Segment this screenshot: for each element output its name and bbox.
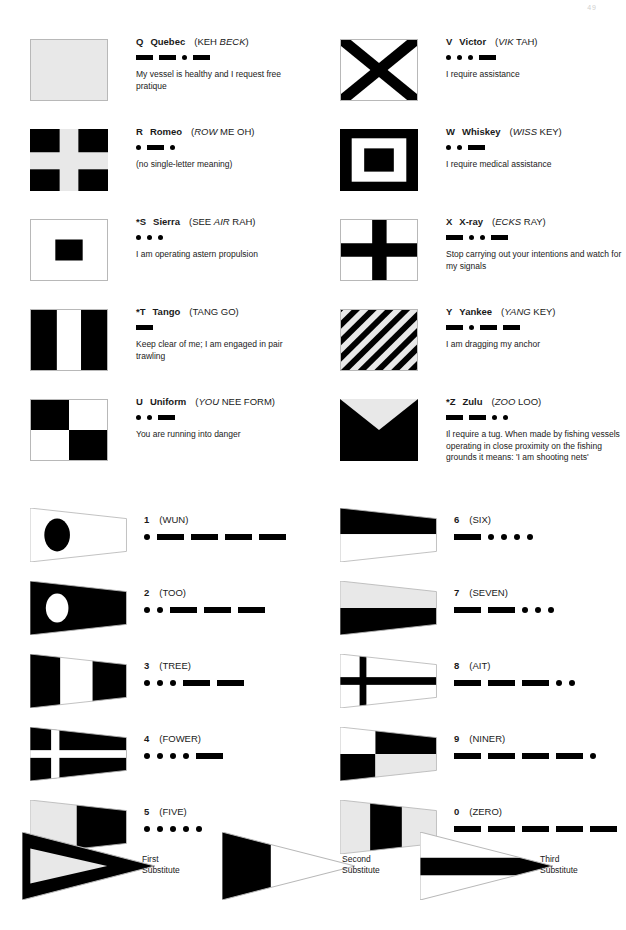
numeral-pennant-entry: 7(SEVEN) <box>318 581 618 652</box>
morse-dash <box>522 753 549 759</box>
morse-dash <box>204 607 231 613</box>
morse-dot <box>469 235 474 240</box>
morse-dash <box>480 325 497 330</box>
pennant-word: (AIT) <box>469 660 490 671</box>
numeral-pennant-entry: 8(AIT) <box>318 654 618 725</box>
substitute-label: First Substitute <box>142 854 180 876</box>
flag-letter: Y <box>446 306 452 317</box>
morse-dot <box>144 753 150 759</box>
morse-dot <box>522 607 528 613</box>
morse-dash <box>454 534 481 540</box>
flag-info: VVictor(VIK TAH) I require assistance <box>446 36 622 81</box>
flag-info: *ZZulu(ZOO LOO) Il require a tug. When m… <box>446 396 622 464</box>
flag-letter: *T <box>136 306 146 317</box>
flag-info: XX-ray(ECKS RAY) Stop carrying out your … <box>446 216 622 272</box>
morse-code <box>446 53 622 62</box>
flag-title: *ZZulu(ZOO LOO) <box>446 396 622 408</box>
flag-info: WWhiskey(WISS KEY) I require medical ass… <box>446 126 622 171</box>
flag-title: *TTango(TANG GO) <box>136 306 312 318</box>
substitute-label-line1: First <box>142 854 180 865</box>
morse-dash <box>479 55 496 60</box>
morse-dot <box>147 235 152 240</box>
flag-letter: X <box>446 216 452 227</box>
pennant-sub1 <box>22 832 157 900</box>
letter-flag-entry: *ZZulu(ZOO LOO) Il require a tug. When m… <box>318 396 618 481</box>
flag-romeo <box>30 129 108 191</box>
numeral-pennant-entry: 6(SIX) <box>318 508 618 579</box>
flag-victor <box>340 39 418 101</box>
pennant-number: 0 <box>454 806 459 817</box>
morse-dot <box>136 145 141 150</box>
flag-pronunciation: (KEH BECK) <box>194 36 248 47</box>
flag-sierra <box>30 219 108 281</box>
morse-dot <box>446 55 451 60</box>
pennant-title: 3(TREE) <box>144 660 324 671</box>
morse-dash <box>488 680 515 686</box>
pennant-title: 7(SEVEN) <box>454 587 626 598</box>
morse-dash <box>556 753 583 759</box>
morse-dot <box>147 415 152 420</box>
flag-info: UUniform(YOU NEE FORM) You are running i… <box>136 396 312 441</box>
morse-dot <box>170 145 175 150</box>
flag-info: *TTango(TANG GO) Keep clear of me; I am … <box>136 306 312 362</box>
morse-dash <box>446 325 463 330</box>
flag-title: VVictor(VIK TAH) <box>446 36 622 48</box>
morse-code <box>446 143 622 152</box>
flag-title: UUniform(YOU NEE FORM) <box>136 396 312 408</box>
morse-dash <box>454 753 481 759</box>
morse-dot <box>514 534 520 540</box>
flag-name: Yankee <box>459 306 492 317</box>
numeral-pennant-entry: 1(WUN) <box>8 508 308 579</box>
pennant-number: 3 <box>144 660 149 671</box>
pennant-p6 <box>340 508 438 562</box>
morse-dash <box>491 235 508 240</box>
morse-code <box>446 323 622 332</box>
morse-code <box>136 413 312 422</box>
morse-dot <box>457 145 462 150</box>
pennant-sub3 <box>420 832 555 900</box>
morse-dot <box>468 55 473 60</box>
substitute-label-line2: Substitute <box>540 865 578 876</box>
morse-dash <box>158 415 175 420</box>
flag-meaning: Keep clear of me; I am engaged in pair t… <box>136 339 312 362</box>
pennant-info: 3(TREE) <box>144 660 324 687</box>
flag-meaning: Stop carrying out your intentions and wa… <box>446 249 622 272</box>
morse-dot <box>492 415 497 420</box>
morse-dash <box>170 607 197 613</box>
morse-dash <box>238 607 265 613</box>
morse-dash <box>488 753 515 759</box>
numeral-pennant-entry: 2(TOO) <box>8 581 308 652</box>
pennant-word: (SEVEN) <box>469 587 508 598</box>
flag-meaning: Il require a tug. When made by fishing v… <box>446 429 622 464</box>
flag-xray <box>340 219 418 281</box>
pennant-word: (SIX) <box>469 514 491 525</box>
pennant-title: 8(AIT) <box>454 660 626 671</box>
morse-dash <box>522 680 549 686</box>
morse-dash <box>225 534 252 540</box>
flag-name: Victor <box>459 36 486 47</box>
substitute-label-line1: Second <box>342 854 380 865</box>
morse-dash <box>446 235 463 240</box>
flag-title: WWhiskey(WISS KEY) <box>446 126 622 138</box>
pennant-title: 9(NINER) <box>454 733 626 744</box>
flag-pronunciation: (TANG GO) <box>189 306 238 317</box>
flag-tango <box>30 309 108 371</box>
flag-info: RRomeo(ROW ME OH) (no single-letter mean… <box>136 126 312 171</box>
morse-dot <box>157 753 163 759</box>
morse-dot <box>569 680 575 686</box>
pennant-p2 <box>30 581 128 635</box>
morse-dash <box>446 415 463 420</box>
pennant-p3 <box>30 654 128 708</box>
flag-letter: Q <box>136 36 143 47</box>
flag-name: X-ray <box>459 216 483 227</box>
morse-dash <box>183 680 210 686</box>
morse-dash <box>469 415 486 420</box>
flag-pronunciation: (SEE AIR RAH) <box>189 216 256 227</box>
numeral-pennant-entry: 3(TREE) <box>8 654 308 725</box>
flag-yankee <box>340 309 418 371</box>
pennant-number: 8 <box>454 660 459 671</box>
pennant-title: 2(TOO) <box>144 587 324 598</box>
flag-pronunciation: (ZOO LOO) <box>492 396 542 407</box>
flag-letter: U <box>136 396 143 407</box>
